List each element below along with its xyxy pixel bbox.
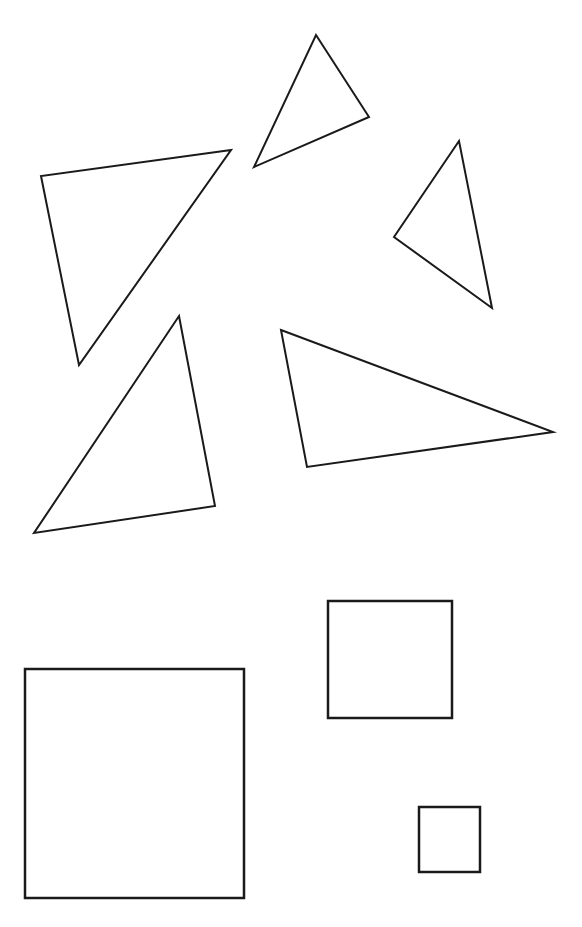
triangles-group xyxy=(34,35,553,533)
triangle-right xyxy=(394,141,492,308)
triangle-top-center xyxy=(254,35,369,167)
triangle-lower-left xyxy=(34,316,215,533)
square-large xyxy=(25,669,244,898)
square-small xyxy=(419,807,480,872)
shapes-svg xyxy=(0,0,582,927)
squares-group xyxy=(25,601,480,898)
figure-canvas xyxy=(0,0,582,927)
square-medium xyxy=(328,601,452,718)
triangle-lower-right-wide xyxy=(281,330,553,467)
triangle-upper-left-large xyxy=(41,150,231,365)
